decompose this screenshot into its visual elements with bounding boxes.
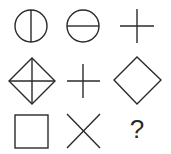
diamond-icon	[114, 57, 161, 104]
cell-r3c1-square	[15, 115, 48, 148]
cell-r1c1-circle-vertical-line	[15, 10, 47, 42]
cell-r1c2-circle-horizontal-line	[67, 10, 99, 42]
cell-r3c2-x-cross	[67, 114, 100, 148]
cell-r1c3-plus	[120, 9, 154, 43]
figure-matrix-puzzle: ?	[0, 0, 171, 154]
cell-r2c3-diamond	[114, 57, 161, 104]
missing-cell-question-mark: ?	[127, 115, 147, 143]
square-icon	[15, 115, 48, 148]
cell-r2c2-plus	[67, 64, 100, 98]
cell-r2c1-diamond-plus	[9, 58, 55, 104]
